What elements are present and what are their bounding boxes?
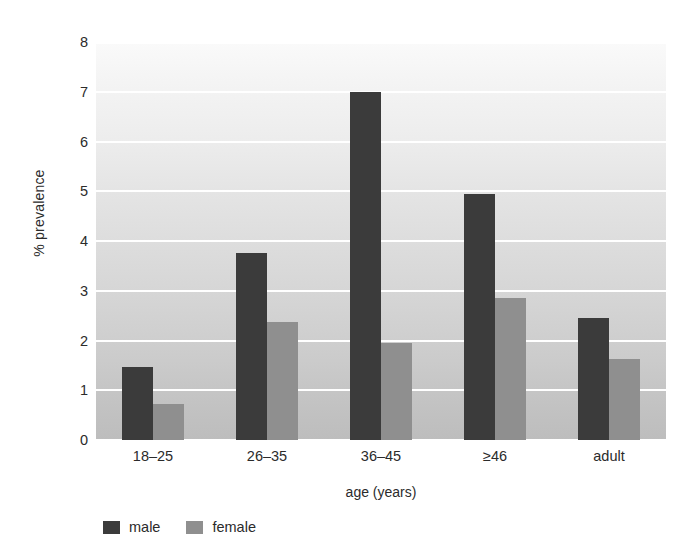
bar-group <box>438 42 552 440</box>
x-axis-tick-label: 36–45 <box>324 448 438 464</box>
bar-male <box>122 367 153 440</box>
y-axis-tick-label: 6 <box>56 134 88 149</box>
bar-male <box>350 92 381 440</box>
y-axis-tick-label: 7 <box>56 85 88 100</box>
y-axis-tick-label: 8 <box>56 35 88 50</box>
bar-pair <box>464 194 526 440</box>
legend-item-female: female <box>186 519 256 535</box>
bar-female <box>609 359 640 440</box>
legend-item-male: male <box>103 519 160 535</box>
x-axis-title: age (years) <box>96 484 666 500</box>
bar-female <box>381 343 412 440</box>
bar-group <box>210 42 324 440</box>
bar-pair <box>578 318 640 440</box>
x-axis-tick-label: adult <box>552 448 666 464</box>
x-axis-tick-label: ≥46 <box>438 448 552 464</box>
legend-swatch-male <box>103 521 120 534</box>
plot-area <box>96 42 666 440</box>
bar-male <box>464 194 495 440</box>
bar-chart-figure: % prevalence 012345678 18–2526–3536–45≥4… <box>0 0 699 556</box>
y-axis-tick-label: 5 <box>56 184 88 199</box>
bar-female <box>495 298 526 440</box>
y-axis-tick-label: 3 <box>56 284 88 299</box>
bar-pair <box>350 92 412 440</box>
x-axis-tick-label: 18–25 <box>96 448 210 464</box>
bar-male <box>578 318 609 440</box>
bar-groups <box>96 42 666 440</box>
x-axis-tick-label: 26–35 <box>210 448 324 464</box>
y-axis-tick-label: 4 <box>56 234 88 249</box>
bar-pair <box>122 367 184 440</box>
y-axis-tick-label: 1 <box>56 383 88 398</box>
bar-group <box>96 42 210 440</box>
y-axis-tick-labels: 012345678 <box>56 42 88 440</box>
legend-label: female <box>212 519 256 535</box>
bar-male <box>236 253 267 440</box>
bar-female <box>267 322 298 440</box>
y-axis-title: % prevalence <box>31 153 47 273</box>
legend-swatch-female <box>186 521 203 534</box>
bar-group <box>324 42 438 440</box>
bar-group <box>552 42 666 440</box>
bar-female <box>153 404 184 440</box>
y-axis-tick-label: 2 <box>56 333 88 348</box>
y-axis-tick-label: 0 <box>56 433 88 448</box>
x-axis-tick-labels: 18–2526–3536–45≥46adult <box>96 448 666 464</box>
legend-label: male <box>129 519 160 535</box>
bar-pair <box>236 253 298 440</box>
legend: malefemale <box>103 519 256 535</box>
